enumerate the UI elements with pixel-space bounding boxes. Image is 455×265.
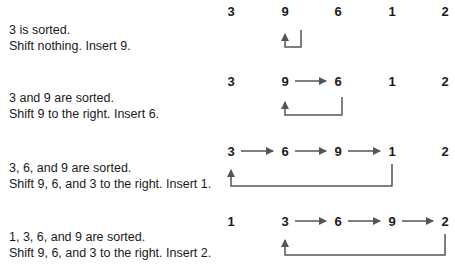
step-1-insert-arrow: [285, 30, 301, 47]
step-3-insert-arrow: [231, 164, 392, 186]
step-4-insert-arrow: [285, 234, 445, 255]
step-2-insert-arrow: [285, 97, 342, 115]
arrows-layer: [0, 0, 455, 265]
